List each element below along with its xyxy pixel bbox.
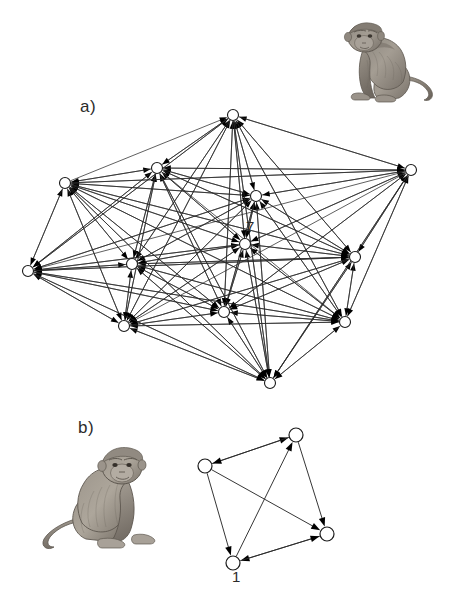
graph-node[interactable] xyxy=(350,252,361,263)
graph-node[interactable] xyxy=(251,191,262,202)
graph-node[interactable] xyxy=(60,178,71,189)
graph-a-node-group xyxy=(23,110,417,389)
graph-edge xyxy=(138,257,345,263)
graph-node[interactable] xyxy=(320,527,334,541)
graph-edge xyxy=(71,170,401,182)
edge-arrowhead xyxy=(262,191,270,197)
graph-edge xyxy=(69,188,126,256)
graph-edge xyxy=(67,189,120,317)
edge-arrowhead xyxy=(311,523,320,530)
edge-arrowhead xyxy=(310,536,320,542)
graph-node[interactable] xyxy=(127,259,138,270)
graph-node[interactable] xyxy=(228,110,239,121)
graph-node[interactable] xyxy=(198,459,212,473)
figure-panel-container: a) b) 7 1 xyxy=(0,0,449,597)
graph-node[interactable] xyxy=(240,239,251,250)
graph-edge xyxy=(36,119,228,265)
graph-node[interactable] xyxy=(226,556,240,570)
graph-edge xyxy=(240,538,315,561)
graph-edge xyxy=(227,250,243,302)
graph-edge xyxy=(239,117,401,167)
graph-node[interactable] xyxy=(23,266,34,277)
graph-edge xyxy=(71,183,246,195)
graph-edge xyxy=(130,328,261,379)
graph-edge xyxy=(137,268,263,376)
graph-node[interactable] xyxy=(340,317,351,328)
graph-edge xyxy=(227,202,255,302)
graph-edge xyxy=(32,189,63,262)
graph-edge xyxy=(234,259,350,308)
graph-b-node-group xyxy=(198,428,334,570)
edge-arrowhead xyxy=(121,252,128,260)
edge-arrowhead xyxy=(250,182,255,190)
graph-edge xyxy=(71,119,224,181)
edge-arrowhead xyxy=(319,517,325,527)
graph-edge xyxy=(163,168,401,170)
edge-arrowhead xyxy=(210,311,218,317)
graph-edge xyxy=(75,169,151,181)
graph-node[interactable] xyxy=(152,163,163,174)
graph-edge xyxy=(349,176,408,313)
edge-arrowhead xyxy=(251,236,259,242)
edge-arrowhead xyxy=(212,458,222,464)
graph-a-edge-group xyxy=(30,116,408,380)
network-diagram-svg xyxy=(0,0,449,597)
graph-edge xyxy=(34,272,214,310)
graph-edge xyxy=(70,187,216,306)
edge-arrowhead xyxy=(111,317,119,323)
graph-edge xyxy=(224,121,232,302)
graph-edge xyxy=(298,442,323,522)
graph-node[interactable] xyxy=(219,307,230,318)
graph-edge xyxy=(142,245,239,262)
graph-edge xyxy=(255,172,406,239)
graph-node[interactable] xyxy=(406,165,417,176)
graph-edge xyxy=(131,200,251,318)
graph-edge xyxy=(212,470,316,528)
graph-node[interactable] xyxy=(119,321,130,332)
graph-edge xyxy=(278,326,340,377)
graph-node[interactable] xyxy=(265,378,276,389)
edge-arrowhead xyxy=(225,546,231,556)
graph-edge xyxy=(166,118,229,162)
edge-arrowhead xyxy=(286,442,293,452)
graph-edge xyxy=(256,202,269,373)
graph-edge xyxy=(207,473,229,551)
graph-edge xyxy=(236,446,290,556)
graph-edge xyxy=(230,312,335,321)
graph-edge xyxy=(33,274,260,379)
graph-node[interactable] xyxy=(289,428,303,442)
graph-edge xyxy=(217,437,289,461)
graph-b-edge-group xyxy=(207,437,325,561)
